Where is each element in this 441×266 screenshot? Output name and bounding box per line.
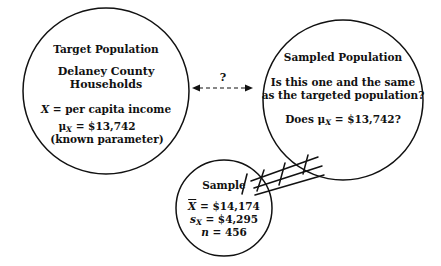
does-parameter-subscript: X [325,118,331,127]
does-prefix: Does [285,113,314,125]
statistics-population-diagram: Target Population Delaney County Househo… [0,0,441,266]
sampled-population-title: Sampled Population [264,51,422,63]
sample-size-statistic: n = 456 [176,226,272,238]
target-variable-symbol: X [41,103,49,115]
comparison-question-mark: ? [206,72,240,85]
target-population-subtitle-line2: Households [70,78,142,91]
sampled-population-question-line2: as the targeted population? [258,89,428,101]
does-parameter-value: = $13,742? [335,113,401,125]
comparison-arrow [192,85,253,92]
sample-mean-statistic: X = $14,174 [176,200,272,212]
sampled-population-does-question: Does μX = $13,742? [264,113,422,128]
target-population-title: Target Population [23,43,189,55]
sample-sd-value: = $4,295 [205,213,258,225]
sample-mean-symbol: X [188,200,196,212]
sample-size-symbol: n [201,226,209,238]
sample-title: Sample [176,179,272,191]
target-population-parameter-note: (known parameter) [22,133,192,145]
target-variable-definition: = per capita income [53,103,171,115]
sampled-population-question-line1: Is this one and the same [258,76,428,88]
target-population-subtitle: Delaney County Households [23,66,189,92]
sample-mean-value: = $14,174 [200,200,260,212]
target-population-variable: X = per capita income [18,103,194,115]
target-population-subtitle-line1: Delaney County [58,65,155,78]
target-parameter-value: = $13,742 [76,120,136,132]
sample-size-value: = 456 [212,226,246,238]
target-parameter-symbol: μ [58,120,66,132]
